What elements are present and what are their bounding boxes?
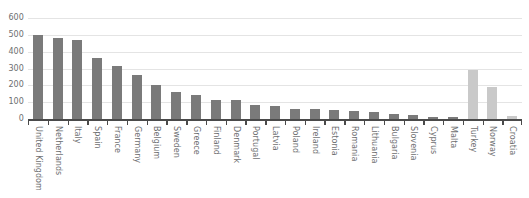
x-axis-tick-label: Denmark <box>232 126 240 163</box>
bar[interactable] <box>310 109 320 119</box>
tick-mark <box>285 120 286 125</box>
x-axis-tick-label: Belgium <box>152 126 160 159</box>
x-axis-tick-label: Germany <box>133 126 141 163</box>
x-axis-label-slot: Denmark <box>226 126 246 196</box>
y-axis-labels: 0100200300400500600 <box>0 18 24 119</box>
x-axis-label-slot: Romania <box>344 126 364 196</box>
x-axis-tick <box>344 120 364 125</box>
x-axis-label-slot: France <box>107 126 127 196</box>
x-axis-label-slot: Norway <box>483 126 503 196</box>
x-axis-label-slot: Germany <box>127 126 147 196</box>
bar-slot <box>107 18 127 119</box>
bar[interactable] <box>151 85 161 119</box>
x-axis-tick <box>107 120 127 125</box>
bar-slot <box>483 18 503 119</box>
x-axis-label-slot: Latvia <box>265 126 285 196</box>
bar[interactable] <box>92 58 102 119</box>
bar-slot <box>87 18 107 119</box>
tick-mark <box>87 120 88 125</box>
bar[interactable] <box>369 112 379 119</box>
bar-slot <box>285 18 305 119</box>
y-axis-tick-label: 100 <box>8 98 24 106</box>
bar[interactable] <box>250 105 260 119</box>
bar-slot <box>404 18 424 119</box>
x-axis-tick <box>364 120 384 125</box>
bar-slot <box>502 18 522 119</box>
x-axis-tick <box>443 120 463 125</box>
x-axis-tick <box>384 120 404 125</box>
tick-mark <box>463 120 464 125</box>
tick-mark <box>147 120 148 125</box>
x-axis-ticks <box>28 120 522 125</box>
x-axis-tick-label: Norway <box>488 126 496 157</box>
x-axis-tick-label: Finland <box>212 126 220 155</box>
x-axis-tick-label: Sweden <box>172 126 180 158</box>
x-axis-tick-label: Malta <box>449 126 457 148</box>
bar-slot <box>265 18 285 119</box>
x-axis-tick-label: Turkey <box>469 126 477 152</box>
x-axis-tick <box>87 120 107 125</box>
x-axis-label-slot: Ireland <box>305 126 325 196</box>
bar[interactable] <box>349 111 359 119</box>
bar[interactable] <box>211 100 221 119</box>
tick-mark <box>502 120 503 125</box>
x-axis-tick <box>206 120 226 125</box>
bar[interactable] <box>270 106 280 119</box>
bar[interactable] <box>33 35 43 119</box>
bar[interactable] <box>132 75 142 119</box>
x-axis-label-slot: Italy <box>68 126 88 196</box>
x-axis-tick-label: Netherlands <box>54 126 62 175</box>
bar[interactable] <box>191 95 201 119</box>
y-axis-tick-label: 400 <box>8 48 24 56</box>
tick-mark <box>186 120 187 125</box>
tick-mark <box>28 120 29 125</box>
tick-mark <box>68 120 69 125</box>
bar-slot <box>364 18 384 119</box>
x-axis-tick-label: Portugal <box>251 126 259 160</box>
bar-slot <box>245 18 265 119</box>
x-axis-tick <box>265 120 285 125</box>
x-axis-tick-label: Lithuania <box>370 126 378 164</box>
tick-mark <box>443 120 444 125</box>
x-axis-label-slot: Croatia <box>502 126 522 196</box>
x-axis-label-slot: Spain <box>87 126 107 196</box>
tick-mark <box>384 120 385 125</box>
x-axis-label-slot: Sweden <box>166 126 186 196</box>
x-axis-tick <box>245 120 265 125</box>
bar[interactable] <box>72 40 82 119</box>
bar[interactable] <box>112 66 122 119</box>
y-axis-tick-label: 0 <box>19 115 24 123</box>
y-axis-tick-label: 300 <box>8 65 24 73</box>
bar-slot <box>68 18 88 119</box>
x-axis-label-slot: Portugal <box>245 126 265 196</box>
x-axis-tick-label: France <box>113 126 121 153</box>
x-axis-label-slot: Estonia <box>324 126 344 196</box>
x-axis-tick <box>48 120 68 125</box>
bar-slot <box>186 18 206 119</box>
bar-slot <box>344 18 364 119</box>
bar[interactable] <box>290 109 300 119</box>
bar[interactable] <box>171 92 181 119</box>
bar-slot <box>166 18 186 119</box>
x-axis-label-slot: Finland <box>206 126 226 196</box>
x-axis-tick <box>324 120 344 125</box>
tick-mark <box>324 120 325 125</box>
bar[interactable] <box>53 38 63 119</box>
x-axis-label-slot: Bulgaria <box>384 126 404 196</box>
bar[interactable] <box>231 100 241 119</box>
x-axis-tick <box>463 120 483 125</box>
x-axis-label-slot: Malta <box>443 126 463 196</box>
x-axis-tick <box>483 120 503 125</box>
x-axis-tick-label: Romania <box>350 126 358 161</box>
x-axis-label-slot: Cyprus <box>423 126 443 196</box>
bar-slot <box>226 18 246 119</box>
x-axis-tick <box>502 120 522 125</box>
x-axis-tick <box>166 120 186 125</box>
bar[interactable] <box>487 87 497 119</box>
x-axis-tick <box>186 120 206 125</box>
bar[interactable] <box>468 70 478 119</box>
x-axis-tick <box>68 120 88 125</box>
tick-mark <box>344 120 345 125</box>
x-axis-tick-label: Latvia <box>271 126 279 151</box>
bar[interactable] <box>329 110 339 119</box>
